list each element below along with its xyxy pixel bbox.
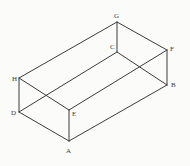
edge-B-C (117, 52, 167, 85)
edge-E-H (19, 78, 69, 110)
vertex-label-b: B (171, 82, 176, 89)
vertex-label-c: C (110, 44, 115, 51)
cuboid-edge-group (19, 22, 167, 141)
vertex-label-d: D (11, 110, 16, 117)
vertex-label-e: E (72, 111, 76, 118)
geometry-figure: ABCDEFGH (0, 0, 190, 166)
vertex-label-a: A (66, 148, 71, 155)
vertex-label-f: F (170, 46, 174, 53)
edge-A-B (69, 85, 167, 141)
vertex-label-h: H (12, 76, 17, 83)
cuboid-wireframe (0, 0, 190, 166)
edge-G-H (19, 22, 117, 78)
edge-C-D (19, 52, 117, 112)
edge-F-G (117, 22, 167, 50)
vertex-label-g: G (114, 13, 119, 20)
edge-A-D (19, 112, 69, 141)
edge-E-F (69, 50, 167, 110)
